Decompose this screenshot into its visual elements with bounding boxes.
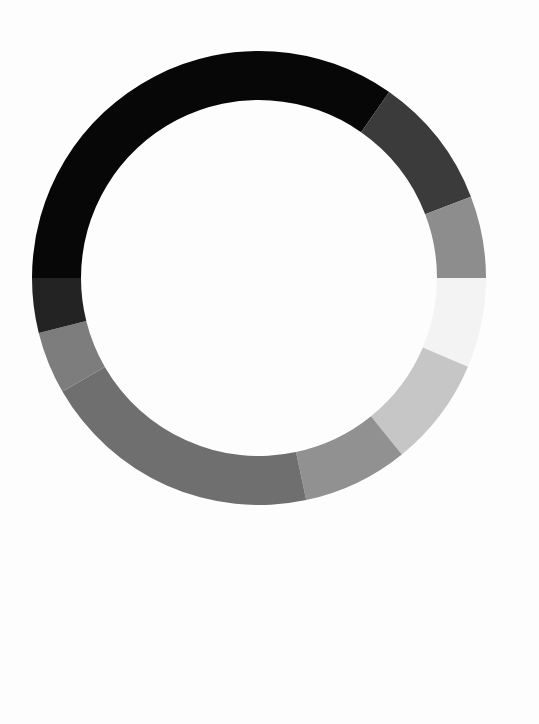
chart-canvas <box>0 0 539 724</box>
donut-chart <box>0 0 539 724</box>
donut-chart-svg <box>0 0 539 724</box>
